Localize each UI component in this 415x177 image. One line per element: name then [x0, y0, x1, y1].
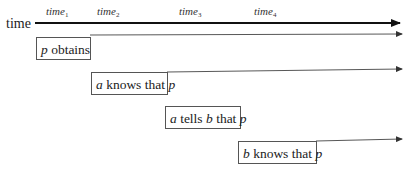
event-text-part: knows that — [103, 77, 169, 92]
time-point-2: time2 — [97, 5, 119, 19]
state-line-a-knows — [167, 69, 402, 72]
event-box-b-knows-that-p: b knows that p — [238, 141, 317, 164]
event-text-part: p — [41, 42, 48, 57]
event-text-part: knows that — [250, 146, 316, 161]
time-axis-label: time — [6, 16, 31, 32]
event-box-a-tells-b-that-p: a tells b that p — [165, 106, 241, 129]
event-box-p-obtains: p obtains — [36, 37, 91, 60]
event-text-part: b — [206, 111, 213, 126]
event-text-part: a — [96, 77, 103, 92]
time-point-4: time4 — [254, 5, 276, 19]
event-text-part: obtains — [48, 42, 90, 57]
time-point-1: time1 — [46, 5, 68, 19]
event-text-part: p — [240, 111, 247, 126]
event-text-part: tells — [177, 111, 206, 126]
time-point-3: time3 — [179, 5, 201, 19]
state-line-b-knows — [316, 139, 402, 141]
event-text-part: p — [315, 146, 322, 161]
event-box-a-knows-that-p: a knows that p — [91, 72, 168, 95]
event-text-part: b — [243, 146, 250, 161]
event-text-part: a — [170, 111, 177, 126]
state-line-p-obtains — [90, 34, 402, 35]
event-text-part: p — [168, 77, 175, 92]
timeline-lines — [0, 0, 415, 177]
event-text-part: that — [213, 111, 240, 126]
